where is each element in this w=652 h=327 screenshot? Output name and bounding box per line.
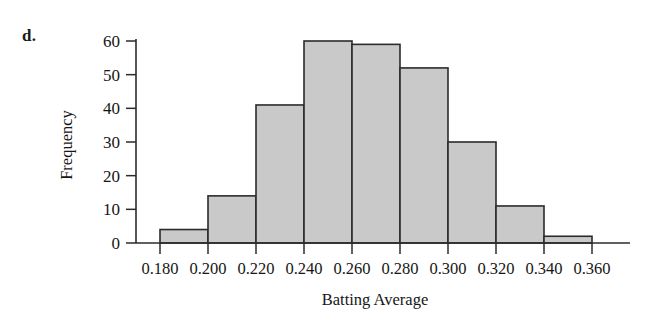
- histogram-bar: [160, 230, 208, 243]
- x-axis-ticks: 0.1800.2000.2200.2400.2600.2800.3000.320…: [141, 243, 610, 278]
- y-tick-label: 60: [103, 32, 120, 51]
- x-tick-label: 0.180: [141, 259, 178, 278]
- y-axis-title: Frequency: [57, 109, 76, 179]
- x-tick-label: 0.280: [381, 259, 418, 278]
- x-tick-label: 0.260: [333, 259, 370, 278]
- histogram-bar: [496, 206, 544, 243]
- y-axis-ticks: 0102030405060: [103, 32, 136, 253]
- y-tick-label: 10: [103, 200, 120, 219]
- histogram-plot: 0102030405060 0.1800.2000.2200.2400.2600…: [0, 0, 652, 327]
- y-tick-label: 30: [103, 133, 120, 152]
- x-tick-label: 0.300: [429, 259, 466, 278]
- y-tick-label: 20: [103, 167, 120, 186]
- x-tick-label: 0.220: [237, 259, 274, 278]
- x-tick-label: 0.320: [477, 259, 514, 278]
- y-tick-label: 50: [103, 66, 120, 85]
- x-tick-label: 0.360: [573, 259, 610, 278]
- y-tick-label: 40: [103, 99, 120, 118]
- x-axis-title: Batting Average: [322, 290, 428, 309]
- x-tick-label: 0.200: [189, 259, 226, 278]
- histogram-bar: [448, 142, 496, 243]
- histogram-bar: [352, 44, 400, 243]
- y-tick-label: 0: [112, 234, 121, 253]
- histogram-bar: [256, 105, 304, 243]
- histogram-bar: [304, 41, 352, 243]
- x-tick-label: 0.340: [525, 259, 562, 278]
- histogram-bar: [544, 236, 592, 243]
- bars-group: [160, 41, 592, 243]
- x-tick-label: 0.240: [285, 259, 322, 278]
- histogram-bar: [400, 68, 448, 243]
- histogram-figure: d. 0102030405060 0.1800.2000.2200.2400.2…: [0, 0, 652, 327]
- histogram-bar: [208, 196, 256, 243]
